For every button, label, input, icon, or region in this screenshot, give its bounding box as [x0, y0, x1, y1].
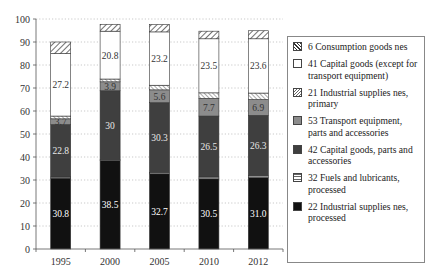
legend-swatch-icon [293, 202, 302, 211]
y-tick-label: 0 [25, 244, 30, 255]
legend: 6 Consumption goods nes41 Capital goods … [287, 36, 425, 263]
bar-segment [248, 93, 268, 99]
segment-value-label: 38.5 [102, 200, 119, 210]
segment-value-label: 30.8 [52, 209, 69, 219]
y-tick-label: 20 [20, 198, 30, 209]
legend-label: 42 Capital goods, parts and accessories [308, 144, 419, 167]
bar-segment [51, 42, 71, 54]
segment-value-label: 7.7 [203, 103, 215, 113]
x-tick-label: 1995 [51, 256, 71, 267]
y-tick-label: 50 [20, 129, 30, 140]
segment-value-label: 30.5 [201, 209, 218, 219]
bar-2010: 30.526.57.723.5 [199, 31, 219, 249]
segment-value-label: 27.2 [52, 80, 69, 90]
segment-value-label: 23.5 [201, 61, 218, 71]
legend-item-consumption: 6 Consumption goods nes [293, 41, 419, 53]
y-tick-label: 30 [20, 175, 30, 186]
x-axis: 19952000200520102012 [36, 249, 283, 267]
bar-segment [150, 85, 170, 90]
bar-2012: 31.026.36.923.6 [248, 31, 268, 249]
bar-segment [150, 25, 170, 32]
segment-value-label: 22.8 [52, 146, 69, 156]
bar-segment [248, 31, 268, 39]
legend-item-capital42: 42 Capital goods, parts and accessories [293, 144, 419, 167]
y-axis: 0102030405060708090100 [15, 14, 36, 255]
y-tick-label: 60 [20, 106, 30, 117]
x-tick-label: 2012 [248, 256, 268, 267]
bar-segment [51, 116, 71, 119]
y-tick-label: 70 [20, 83, 30, 94]
segment-value-label: 3.9 [104, 82, 116, 92]
legend-swatch-icon [293, 173, 302, 182]
bar-1995: 30.822.83.727.2 [51, 42, 71, 249]
bar-2000: 38.5303.920.8 [100, 24, 120, 249]
legend-label: 32 Fuels and lubricants, processed [308, 172, 419, 195]
legend-swatch-icon [293, 145, 302, 154]
legend-item-capital41: 41 Capital goods (except for transport e… [293, 58, 419, 81]
legend-swatch-icon [293, 88, 302, 97]
bars: 30.822.83.727.238.5303.920.832.730.35.62… [51, 24, 269, 249]
legend-label: 53 Transport equipment, parts and access… [308, 115, 419, 138]
bar-segment [199, 31, 219, 39]
legend-label: 6 Consumption goods nes [308, 41, 407, 53]
y-tick-label: 90 [20, 37, 30, 48]
legend-label: 22 Industrial supplies nes, processed [308, 201, 419, 224]
segment-value-label: 23.2 [151, 54, 168, 64]
segment-value-label: 23.6 [250, 61, 267, 71]
segment-value-label: 6.9 [252, 103, 264, 113]
segment-value-label: 26.5 [201, 142, 218, 152]
x-tick-label: 2010 [199, 256, 219, 267]
segment-value-label: 20.8 [102, 51, 119, 61]
legend-swatch-icon [293, 116, 302, 125]
legend-swatch-icon [293, 59, 302, 68]
x-tick-label: 2000 [100, 256, 120, 267]
legend-label: 41 Capital goods (except for transport e… [308, 58, 419, 81]
y-tick-label: 40 [20, 152, 30, 163]
segment-value-label: 30 [105, 121, 115, 131]
segment-value-label: 5.6 [154, 92, 166, 102]
segment-value-label: 31.0 [250, 209, 267, 219]
y-tick-label: 80 [20, 60, 30, 71]
legend-item-industrial22: 22 Industrial supplies nes, processed [293, 201, 419, 224]
y-tick-label: 100 [15, 14, 30, 25]
segment-value-label: 26.3 [250, 141, 267, 151]
segment-value-label: 30.3 [151, 133, 168, 143]
legend-label: 21 Industrial supplies nes, primary [308, 87, 419, 110]
x-tick-label: 2005 [150, 256, 170, 267]
legend-item-transport53: 53 Transport equipment, parts and access… [293, 115, 419, 138]
bar-segment [199, 93, 219, 99]
bar-2005: 32.730.35.623.2 [150, 25, 170, 249]
y-tick-label: 10 [20, 221, 30, 232]
legend-item-fuels32: 32 Fuels and lubricants, processed [293, 172, 419, 195]
bar-segment [100, 79, 120, 82]
legend-item-industrial21: 21 Industrial supplies nes, primary [293, 87, 419, 110]
segment-value-label: 32.7 [151, 207, 168, 217]
bar-segment [100, 24, 120, 31]
legend-swatch-icon [293, 42, 302, 51]
